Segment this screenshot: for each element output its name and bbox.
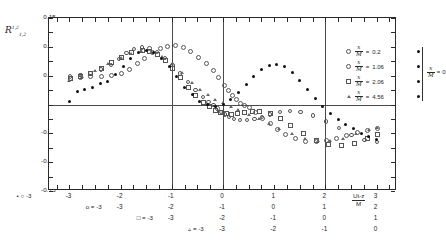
y-tick	[49, 133, 53, 134]
bracket-label: x M = 0	[427, 66, 446, 78]
data-point	[160, 57, 163, 60]
x-tick	[210, 185, 211, 189]
y-tick	[49, 32, 53, 33]
x-tick	[172, 185, 173, 189]
legend-denominator: M	[355, 67, 363, 73]
x-tick-label: 1	[323, 203, 327, 210]
data-point	[226, 88, 231, 93]
x-tick	[108, 185, 109, 189]
legend-entry: xM=4.56	[345, 89, 417, 104]
x-tick	[108, 18, 109, 22]
data-point	[267, 122, 271, 125]
data-point	[257, 117, 261, 120]
x-tick	[338, 185, 339, 189]
x-tick	[249, 185, 250, 189]
legend-bracket	[422, 47, 426, 101]
x-axis-row: -3-2-10123• ○ -3	[0, 192, 408, 203]
x-axis-row-key: o = -3	[86, 203, 102, 210]
data-point	[198, 88, 202, 91]
bracket-denominator: M	[427, 73, 435, 79]
legend-value: 2.06	[372, 79, 384, 85]
x-tick	[57, 18, 58, 22]
data-point	[188, 49, 193, 54]
data-point	[306, 88, 309, 91]
data-point	[328, 139, 332, 142]
x-tick	[261, 18, 262, 22]
data-point	[129, 52, 133, 55]
x-tick	[261, 185, 262, 189]
data-point	[229, 105, 233, 108]
x-tick-label: -3	[168, 214, 174, 221]
y-tick	[391, 177, 395, 178]
x-tick-label: -2	[219, 214, 225, 221]
data-point	[360, 132, 363, 135]
data-point	[178, 75, 183, 80]
bracket-marker	[414, 89, 422, 104]
data-point	[339, 143, 344, 148]
x-tick	[82, 185, 83, 189]
y-tick	[391, 148, 395, 149]
x-tick	[146, 18, 147, 22]
data-point	[106, 62, 110, 65]
x-tick-label: 0	[323, 214, 327, 221]
legend-equals: =	[366, 64, 370, 70]
legend-marker-icon	[345, 79, 352, 84]
x-tick	[274, 18, 275, 22]
x-tick-label: 1	[374, 214, 378, 221]
data-point	[367, 135, 370, 138]
x-tick-label: 1	[271, 192, 275, 199]
x-tick	[146, 185, 147, 189]
data-point	[119, 56, 123, 59]
data-point	[337, 126, 341, 130]
x-tick	[185, 185, 186, 189]
data-point	[245, 83, 248, 86]
data-point	[216, 75, 221, 80]
y-tick	[391, 18, 395, 19]
data-point	[93, 69, 97, 72]
x-tick	[172, 18, 173, 22]
x-tick	[313, 185, 314, 189]
data-point	[283, 65, 286, 68]
data-point	[260, 68, 263, 71]
x-tick-label: -1	[322, 225, 328, 232]
data-point	[236, 108, 240, 111]
data-point	[324, 119, 328, 123]
data-point	[181, 45, 186, 50]
data-point	[288, 109, 292, 113]
data-point	[321, 105, 324, 108]
y-tick	[49, 148, 53, 149]
data-point	[268, 111, 273, 116]
bracket-value: 0	[442, 69, 445, 75]
bracket-marker	[414, 74, 422, 89]
data-point	[76, 90, 79, 93]
data-point	[191, 93, 194, 96]
data-point	[99, 74, 104, 79]
y-tick	[49, 90, 53, 91]
bracket-marker-column	[414, 44, 422, 104]
y-tick	[391, 119, 395, 120]
x-tick	[95, 18, 96, 22]
x-tick	[223, 185, 224, 189]
x-axis-row-key: • ○ -3	[17, 192, 32, 199]
data-point	[106, 80, 109, 83]
x-axis-row: o = -3-3-2-1012	[0, 203, 408, 214]
data-point	[206, 93, 210, 96]
legend-entry: xM=0.2	[345, 44, 417, 59]
x-tick	[159, 18, 160, 22]
data-point	[229, 112, 234, 117]
data-point	[375, 126, 379, 129]
x-tick	[121, 185, 122, 189]
x-tick	[210, 18, 211, 22]
data-point	[91, 86, 94, 89]
data-point	[165, 44, 170, 49]
y-tick	[49, 177, 53, 178]
x-axis-row-key: □ = -3	[137, 214, 153, 221]
data-point	[314, 97, 317, 100]
bracket-marker	[414, 44, 422, 59]
x-tick-label: -3	[66, 192, 72, 199]
x-tick	[364, 185, 365, 189]
x-tick-label: 0	[220, 192, 224, 199]
vertical-gridline	[325, 18, 326, 189]
x-tick-label: -2	[168, 203, 174, 210]
